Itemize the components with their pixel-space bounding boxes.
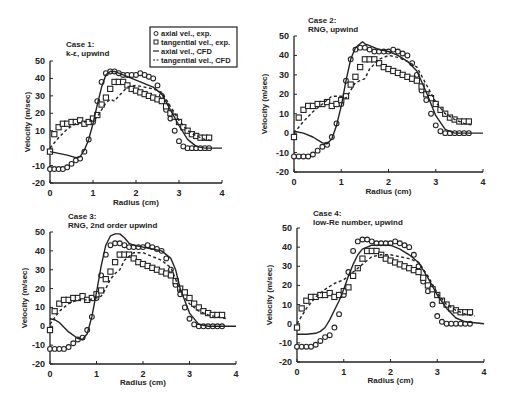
legend: axial vel., exp. tangential vel., exp. a… <box>150 27 237 67</box>
tangential-exp-point <box>421 275 426 280</box>
axial-exp-point <box>360 237 365 242</box>
axial-exp-point <box>369 239 374 244</box>
axial-exp-point <box>113 241 118 246</box>
axial-exp-point <box>332 325 337 330</box>
tangential-exp-point <box>466 119 471 124</box>
x-tick-label: 1 <box>339 177 344 187</box>
x-tick-label: 1 <box>94 369 99 379</box>
tangential-exp-point <box>108 86 113 91</box>
x-tick-label: 3 <box>433 177 438 187</box>
chart-panel-3: -20-100102030405001234Radius (cm)Velocit… <box>20 212 239 387</box>
legend-label-tangential-exp: tangential vel., exp. <box>161 38 230 47</box>
axial-exp-point <box>397 241 402 246</box>
series-dashed <box>50 85 213 148</box>
tangential-exp-point <box>291 134 296 139</box>
x-axis-label: Radius (cm) <box>366 187 412 196</box>
tangential-exp-point <box>351 273 356 278</box>
tangential-exp-point <box>414 78 419 83</box>
axial-exp-point <box>151 76 156 81</box>
axial-exp-point <box>57 347 62 352</box>
y-tick-label: -20 <box>32 178 45 188</box>
x-tick-label: 4 <box>481 367 486 377</box>
tangential-exp-point <box>187 295 192 300</box>
axial-exp-point <box>444 321 449 326</box>
panel-title: Case 3: <box>68 212 96 221</box>
tangential-exp-point <box>353 74 358 79</box>
axial-exp-point <box>292 154 297 159</box>
y-tick-label: -10 <box>276 148 289 158</box>
y-tick-label: 30 <box>35 265 45 275</box>
axial-exp-point <box>430 302 435 307</box>
tangential-exp-point <box>99 102 104 107</box>
series-solid <box>50 72 222 158</box>
axial-exp-point <box>323 335 328 340</box>
x-tick-label: 0 <box>294 367 299 377</box>
x-tick-label: 3 <box>187 369 192 379</box>
axial-exp-point <box>309 344 314 349</box>
y-tick-label: 30 <box>282 261 292 271</box>
tangential-exp-point <box>52 309 57 314</box>
legend-label-axial-exp: axial vel., exp. <box>161 29 211 38</box>
axial-exp-point <box>454 321 459 326</box>
x-axis-label: Radius (cm) <box>368 376 414 385</box>
axial-exp-point <box>65 165 70 170</box>
axial-exp-point <box>400 51 405 56</box>
y-tick-label: 50 <box>282 223 292 233</box>
chart-panel-4: -20-100102030405001234Radius (cm)Velocit… <box>265 209 487 385</box>
y-tick-label: -10 <box>279 338 292 348</box>
series-square <box>294 248 472 330</box>
x-tick-label: 0 <box>291 177 296 187</box>
axial-exp-point <box>337 312 342 317</box>
y-tick-label: 10 <box>279 109 289 119</box>
y-tick-label: -20 <box>279 357 292 367</box>
legend-label-tangential-cfd: tangential vel., CFD <box>161 56 231 65</box>
x-tick-label: 4 <box>233 369 238 379</box>
y-tick-label: 40 <box>35 73 45 83</box>
axial-exp-point <box>69 161 74 166</box>
y-tick-label: 40 <box>279 50 289 60</box>
tangential-cfd-line <box>50 85 213 148</box>
axial-exp-point <box>177 139 182 144</box>
axial-exp-point <box>117 241 122 246</box>
axial-exp-point <box>429 111 434 116</box>
panel-title: Case 1: <box>66 40 94 49</box>
axial-exp-point <box>318 339 323 344</box>
axial-exp-point <box>187 316 192 321</box>
tangential-exp-point <box>47 327 52 332</box>
y-tick-label: 20 <box>282 280 292 290</box>
tangential-exp-point <box>348 82 353 87</box>
tangential-exp-point <box>159 98 164 103</box>
tangential-exp-point <box>358 64 363 69</box>
y-axis-label: Velocity (m/sec) <box>260 73 269 134</box>
y-tick-label: 30 <box>35 91 45 101</box>
axial-exp-point <box>365 237 370 242</box>
x-tick-label: 0 <box>47 369 52 379</box>
axial-exp-point <box>355 239 360 244</box>
y-tick-label: 0 <box>287 319 292 329</box>
tangential-exp-point <box>103 277 108 282</box>
axial-exp-point <box>71 341 76 346</box>
x-tick-label: 3 <box>435 367 440 377</box>
tangential-cfd-line <box>297 255 475 324</box>
tangential-exp-point <box>103 95 108 100</box>
axial-exp-point <box>458 321 463 326</box>
x-tick-label: 2 <box>386 177 391 187</box>
y-axis-label: Velocity (m/sec) <box>265 264 274 325</box>
axial-exp-point <box>396 49 401 54</box>
y-axis-label: Velocity (m/sec) <box>23 91 32 152</box>
x-axis-label: Radius (cm) <box>120 378 166 387</box>
axial-exp-point <box>372 49 377 54</box>
axial-exp-point <box>351 249 356 254</box>
y-tick-label: -10 <box>32 161 45 171</box>
y-tick-label: 50 <box>35 56 45 66</box>
axial-cfd-line <box>50 72 222 158</box>
tangential-exp-point <box>299 306 304 311</box>
y-tick-label: 20 <box>35 108 45 118</box>
axial-exp-point <box>443 131 448 136</box>
axial-exp-point <box>66 345 71 350</box>
chart-panel-2: -20-100102030405001234Radius (cm)Velocit… <box>260 16 486 196</box>
x-axis-label: Radius (cm) <box>113 198 159 207</box>
axial-exp-point <box>327 333 332 338</box>
axial-exp-point <box>315 148 320 153</box>
axial-exp-point <box>48 347 53 352</box>
